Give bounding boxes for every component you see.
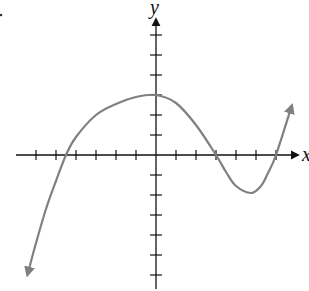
y-axis bbox=[150, 19, 162, 289]
function-curve bbox=[29, 95, 292, 269]
stray-dot bbox=[0, 14, 2, 17]
y-axis-label: y bbox=[148, 0, 159, 19]
x-axis-label: x bbox=[301, 143, 309, 165]
x-axis bbox=[16, 150, 298, 160]
cubic-function-graph: y x bbox=[0, 0, 309, 291]
